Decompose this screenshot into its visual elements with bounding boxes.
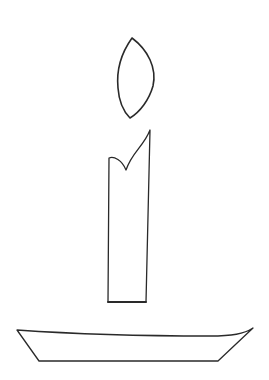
drawing-canvas: Candle line drawing	[0, 0, 269, 380]
candle-body	[108, 130, 150, 302]
flame-icon	[118, 38, 154, 118]
candle-illustration	[0, 0, 269, 380]
candle-holder-base	[17, 328, 253, 361]
